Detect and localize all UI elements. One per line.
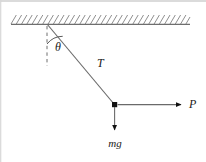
weight-label: mg [108,137,122,149]
ceiling-support [11,15,190,24]
tension-label: T [97,56,105,70]
string-tension-vector [47,24,114,104]
string-line [47,24,114,104]
applied-force-label: P [188,97,197,111]
angle-label: θ [55,40,61,54]
mass-node [112,102,117,107]
tension-arrow [78,61,96,81]
diagram-canvas: θ T mg P [0,0,206,162]
physics-diagram-figure: θ T mg P [0,0,206,162]
ceiling-hatching [11,15,190,24]
